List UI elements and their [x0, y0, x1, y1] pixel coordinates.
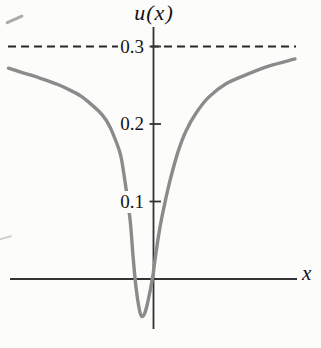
y-tick-label: 0.3	[118, 36, 146, 58]
u-curve	[9, 59, 296, 317]
x-axis-label: x	[302, 261, 311, 286]
plot-canvas	[0, 0, 321, 348]
chart-title: u(x)	[134, 0, 173, 26]
y-tick-label: 0.1	[118, 191, 146, 213]
y-tick-label: 0.2	[118, 113, 146, 135]
function-plot-figure: 0.10.20.3 u(x) x	[0, 0, 321, 348]
